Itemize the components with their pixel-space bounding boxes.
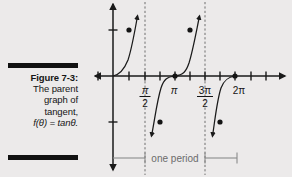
point-2pi [232, 73, 237, 78]
point-pi-over-4 [126, 27, 131, 32]
x-axis-label-group: π 2 π 3π 2 2π [140, 85, 246, 109]
one-period-annotation: one period [113, 153, 237, 164]
point-7pi-over-4 [217, 119, 222, 124]
period-label: one period [151, 153, 198, 164]
point-pi [172, 73, 177, 78]
x-label-3pi-over-2-denominator: 2 [202, 98, 208, 109]
x-label-pi-over-2-denominator: 2 [142, 98, 148, 109]
x-label-2pi: 2π [233, 85, 246, 96]
tangent-graph: π 2 π 3π 2 2π one period [0, 0, 292, 177]
figure-container: Figure 7-3: The parent graph of tangent,… [0, 0, 292, 177]
tangent-branch-3 [213, 76, 236, 136]
x-label-pi: π [171, 85, 178, 96]
point-3pi-over-4 [157, 119, 162, 124]
point-5pi-over-4 [187, 27, 192, 32]
x-label-3pi-over-2-numerator: 3π [199, 85, 212, 96]
x-label-pi-over-2-numerator: π [142, 85, 149, 96]
tangent-branch-1 [113, 16, 138, 76]
